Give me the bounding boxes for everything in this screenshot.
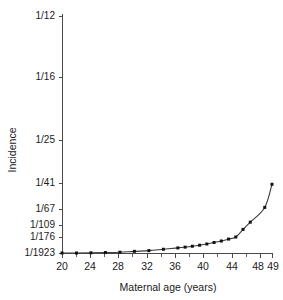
x-tick-label: 49 <box>267 260 279 272</box>
data-point <box>104 251 107 254</box>
data-point <box>118 251 121 254</box>
y-axis-title: Incidence <box>6 127 18 172</box>
x-axis-title: Maternal age (years) <box>120 281 217 293</box>
data-point <box>234 236 237 239</box>
data-point <box>205 242 208 245</box>
data-point <box>227 238 230 241</box>
y-tick-label: 1/25 <box>36 134 56 145</box>
x-tick-label: 36 <box>169 260 181 272</box>
x-tick-label: 24 <box>84 260 96 272</box>
data-point <box>242 228 245 231</box>
data-point <box>75 252 78 255</box>
data-point <box>147 249 150 252</box>
incidence-vs-maternal-age-chart: 1/12 1/16 1/25 1/41 1/67 1/109 1/176 1/1… <box>0 0 283 300</box>
x-tick-label: 44 <box>226 260 238 272</box>
data-point <box>162 248 165 251</box>
data-point <box>271 183 274 186</box>
x-tick-label: 48 <box>252 260 264 272</box>
y-tick-label: 1/12 <box>36 10 56 21</box>
data-point <box>176 246 179 249</box>
x-tick-label: 28 <box>112 260 124 272</box>
x-axis-tick-labels: 20 24 28 32 36 40 44 48 49 <box>56 260 279 272</box>
y-tick-label: 1/67 <box>36 203 56 214</box>
y-tick-label: 1/41 <box>36 177 56 188</box>
data-series-incidence <box>61 183 274 255</box>
y-axis <box>59 14 63 254</box>
data-point <box>263 206 266 209</box>
x-tick-label: 32 <box>141 260 153 272</box>
data-point <box>191 245 194 248</box>
y-tick-label: 1/1923 <box>24 247 55 258</box>
data-point <box>89 251 92 254</box>
x-tick-label: 20 <box>56 260 68 272</box>
data-point <box>198 244 201 247</box>
data-point <box>133 250 136 253</box>
x-tick-label: 40 <box>197 260 209 272</box>
chart-figure: 1/12 1/16 1/25 1/41 1/67 1/109 1/176 1/1… <box>0 0 283 300</box>
data-point <box>213 241 216 244</box>
data-point <box>184 246 187 249</box>
y-tick-label: 1/109 <box>30 219 55 230</box>
y-axis-tick-labels: 1/12 1/16 1/25 1/41 1/67 1/109 1/176 1/1… <box>24 10 55 258</box>
y-tick-label: 1/16 <box>36 71 56 82</box>
data-point <box>220 240 223 243</box>
data-point <box>61 252 64 255</box>
data-point <box>249 221 252 224</box>
y-tick-label: 1/176 <box>30 231 55 242</box>
x-axis <box>62 254 273 259</box>
